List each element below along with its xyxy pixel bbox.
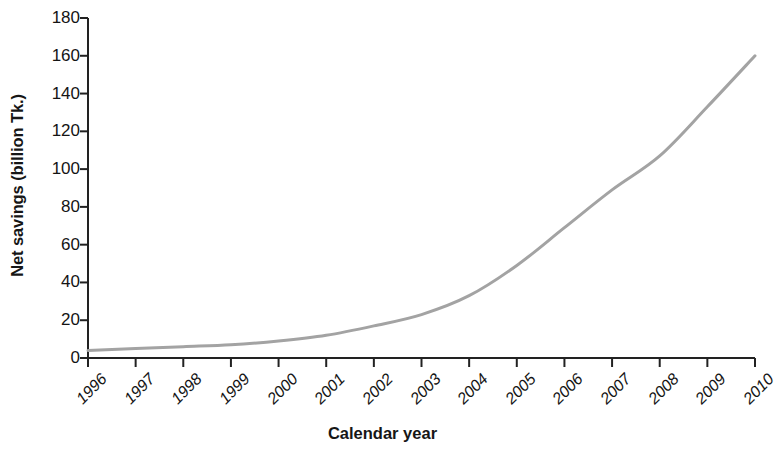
x-axis-tick-label: 2004 — [454, 370, 492, 408]
x-axis-tick-label: 2007 — [597, 370, 635, 408]
x-axis-tick-label: 1998 — [168, 370, 206, 408]
x-axis-tick-label: 2006 — [549, 370, 587, 408]
x-axis-tick-label: 2008 — [645, 370, 683, 408]
x-axis-tick-labels: 1996199719981999200020012002200320042005… — [0, 358, 765, 428]
x-axis-tick-label: 1999 — [216, 370, 254, 408]
x-axis-tick-label: 1997 — [120, 370, 158, 408]
x-axis-tick-label: 1996 — [73, 370, 111, 408]
y-axis-tick-label: 160 — [36, 47, 80, 64]
x-axis-tick-label: 2001 — [311, 370, 349, 408]
y-axis-ticks — [80, 18, 88, 358]
axis-lines — [88, 18, 755, 358]
plot-area — [0, 0, 765, 380]
data-series-group — [88, 56, 755, 351]
y-axis-tick-label: 80 — [36, 198, 80, 215]
y-axis-tick-label: 180 — [36, 9, 80, 26]
y-axis-tick-label: 20 — [36, 311, 80, 328]
x-axis-tick-label: 2000 — [263, 370, 301, 408]
y-axis-tick-labels: 020406080100120140160180 — [36, 0, 80, 380]
x-axis-title: Calendar year — [0, 424, 765, 443]
x-axis-tick-label: 2005 — [502, 370, 540, 408]
x-axis-tick-label: 2010 — [740, 370, 778, 408]
data-line-net-savings — [88, 56, 755, 351]
y-axis-tick-label: 140 — [36, 85, 80, 102]
x-axis-tick-label: 2009 — [692, 370, 730, 408]
y-axis-tick-label: 60 — [36, 236, 80, 253]
x-axis-tick-label: 2002 — [359, 370, 397, 408]
y-axis-tick-label: 40 — [36, 273, 80, 290]
x-axis-tick-label: 2003 — [406, 370, 444, 408]
y-axis-tick-label: 100 — [36, 160, 80, 177]
chart-svg — [0, 0, 765, 380]
y-axis-tick-label: 120 — [36, 122, 80, 139]
